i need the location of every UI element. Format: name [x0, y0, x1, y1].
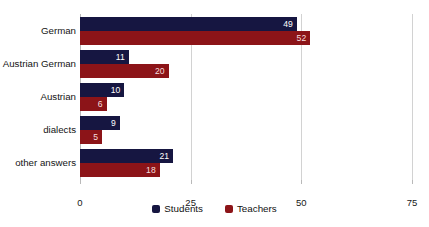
bar-students: 11 — [80, 50, 129, 64]
plot-area: 0255075 German4952Austrian German1120Aus… — [80, 14, 412, 180]
category-label: German — [0, 25, 76, 36]
bar-teachers: 20 — [80, 64, 169, 78]
bar-students: 21 — [80, 149, 173, 163]
bar-value-label: 5 — [93, 133, 98, 142]
bar-group: German4952 — [80, 17, 412, 45]
bar-group: other answers2118 — [80, 149, 412, 177]
legend-swatch-icon — [225, 205, 233, 213]
bar-group: Austrian106 — [80, 83, 412, 111]
bar-value-label: 10 — [111, 86, 121, 95]
bar-teachers: 6 — [80, 97, 107, 111]
bar-value-label: 18 — [146, 166, 156, 175]
x-tick-mark — [412, 180, 413, 184]
bar-chart: 0255075 German4952Austrian German1120Aus… — [0, 0, 429, 227]
x-tick-mark — [191, 180, 192, 184]
bar-teachers: 18 — [80, 163, 160, 177]
x-tick-mark — [80, 180, 81, 184]
category-label: Austrian German — [0, 58, 76, 69]
bar-students: 49 — [80, 17, 297, 31]
category-label: other answers — [0, 157, 76, 168]
bar-value-label: 6 — [98, 100, 103, 109]
bar-students: 10 — [80, 83, 124, 97]
bar-value-label: 20 — [155, 67, 165, 76]
bar-teachers: 52 — [80, 31, 310, 45]
gridline — [412, 14, 413, 180]
bar-group: Austrian German1120 — [80, 50, 412, 78]
bar-value-label: 21 — [159, 152, 169, 161]
category-label: Austrian — [0, 91, 76, 102]
bar-group: dialects95 — [80, 116, 412, 144]
bar-value-label: 9 — [111, 119, 116, 128]
category-label: dialects — [0, 124, 76, 135]
legend-item[interactable]: Students — [152, 203, 203, 214]
legend-item[interactable]: Teachers — [225, 203, 277, 214]
bar-value-label: 11 — [116, 53, 125, 62]
legend-label: Teachers — [237, 203, 277, 214]
bar-students: 9 — [80, 116, 120, 130]
bar-value-label: 52 — [297, 33, 307, 42]
bar-teachers: 5 — [80, 130, 102, 144]
x-tick-mark — [301, 180, 302, 184]
clipped-title-strip — [0, 0, 429, 9]
legend-label: Students — [164, 203, 203, 214]
legend-swatch-icon — [152, 205, 160, 213]
bar-value-label: 49 — [283, 19, 293, 28]
chart-legend: StudentsTeachers — [0, 203, 429, 214]
